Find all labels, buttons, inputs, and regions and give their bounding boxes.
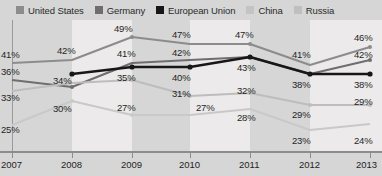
data-label-eu-2010: 40%	[172, 72, 190, 83]
data-label-germany-2007: 36%	[1, 66, 19, 77]
x-tick-2009	[132, 152, 133, 158]
data-label-germany-2009: 41%	[117, 48, 135, 59]
data-label-eu-2013: 38%	[354, 79, 372, 90]
legend-label-united-states: United States	[28, 5, 84, 16]
data-label-china-2013: 29%	[354, 96, 372, 107]
series-marker-european-union	[367, 71, 372, 76]
series-marker-european-union	[307, 71, 312, 76]
data-label-eu-2011: 43%	[237, 62, 255, 73]
x-label-2010: 2010	[179, 159, 200, 170]
chart-legend: United States Germany European Union Chi…	[0, 0, 382, 20]
series-marker-european-union	[247, 54, 252, 59]
x-label-2008: 2008	[61, 159, 82, 170]
data-label-china-2010: 31%	[172, 88, 190, 99]
data-label-russia-2013: 24%	[354, 135, 372, 146]
data-label-russia-2009: 27%	[117, 102, 135, 113]
x-tick-2011	[250, 152, 251, 158]
series-marker-united-states	[130, 35, 134, 39]
data-label-extra-2009: 27%	[196, 102, 214, 113]
data-label-us-2007: 41%	[1, 49, 19, 60]
legend-swatch-china	[246, 6, 254, 14]
x-tick-2007	[12, 152, 13, 158]
legend-swatch-russia	[294, 6, 302, 14]
legend-item-united-states[interactable]: United States	[16, 5, 84, 16]
data-label-us-2012: 41%	[292, 49, 310, 60]
legend-label-russia: Russia	[306, 5, 334, 16]
data-label-germany-2008: 34%	[53, 75, 71, 86]
x-label-2013: 2013	[356, 159, 377, 170]
series-marker-china	[308, 103, 312, 107]
series-lines	[0, 20, 382, 152]
legend-swatch-germany	[95, 6, 103, 14]
plot-area: 41% 36% 33% 25% 42% 34% 30% 49% 41% 35% …	[0, 20, 382, 152]
x-label-2011: 2011	[239, 159, 259, 170]
data-label-us-2008: 42%	[57, 45, 75, 56]
data-label-us-2013: 46%	[354, 32, 372, 43]
data-label-china-2012: 29%	[292, 109, 310, 120]
data-label-us-2010: 47%	[172, 29, 190, 40]
legend-item-germany[interactable]: Germany	[95, 5, 145, 16]
x-label-2012: 2012	[299, 159, 320, 170]
x-tick-2012	[310, 152, 311, 158]
x-axis: 2007 2008 2009 2010 2011 2012 2013	[0, 152, 382, 176]
series-marker-united-states	[248, 42, 252, 46]
legend-swatch-european-union	[156, 6, 164, 14]
data-label-russia-2011: 28%	[237, 112, 255, 123]
data-label-china-2007: 33%	[1, 92, 19, 103]
legend-item-european-union[interactable]: European Union	[156, 5, 235, 16]
data-label-germany-2013: 42%	[354, 49, 372, 60]
legend-label-european-union: European Union	[168, 5, 235, 16]
series-marker-russia	[130, 113, 134, 117]
data-label-china-2011: 32%	[237, 85, 255, 96]
x-label-2007: 2007	[1, 159, 22, 170]
x-label-2009: 2009	[121, 159, 142, 170]
data-label-russia-2007: 25%	[1, 124, 19, 135]
series-marker-european-union	[129, 64, 134, 69]
data-label-russia-2012: 23%	[292, 135, 310, 146]
legend-label-china: China	[258, 5, 282, 16]
legend-swatch-united-states	[16, 6, 24, 14]
series-marker-european-union	[187, 64, 192, 69]
legend-item-china[interactable]: China	[246, 5, 282, 16]
data-label-germany-2010: 42%	[172, 47, 190, 58]
x-tick-2010	[190, 152, 191, 158]
data-label-russia-2008: 30%	[53, 103, 71, 114]
data-label-us-2009: 49%	[114, 23, 132, 34]
data-label-eu-2012: 38%	[292, 79, 310, 90]
x-tick-2013	[370, 152, 371, 158]
x-tick-2008	[72, 152, 73, 158]
legend-label-germany: Germany	[107, 5, 145, 16]
data-label-us-2011: 47%	[235, 29, 253, 40]
data-label-china-2009: 35%	[117, 72, 135, 83]
legend-item-russia[interactable]: Russia	[294, 5, 334, 16]
chart-container: United States Germany European Union Chi…	[0, 0, 382, 176]
